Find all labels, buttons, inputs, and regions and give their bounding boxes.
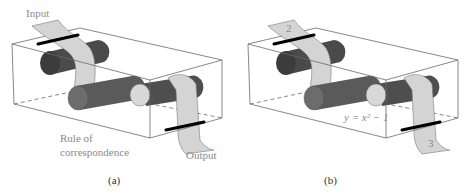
caption-a: (a) (108, 174, 121, 187)
output-value: 3 (428, 137, 434, 149)
input-label: Input (26, 7, 49, 19)
output-label: Output (186, 149, 217, 161)
input-value: 2 (286, 22, 292, 34)
panel-a: Input Rule of correspondence Output (a) (12, 7, 222, 187)
caption-b: (b) (324, 174, 337, 187)
panel-b: 2 y = x² − 1 3 (b) (248, 20, 458, 187)
machine-a (12, 20, 222, 154)
machine-b (248, 20, 458, 154)
rule-label-line1: Rule of (60, 132, 93, 144)
rule-label-line2: correspondence (60, 146, 129, 158)
rule-label: y = x² − 1 (343, 111, 388, 123)
function-machine-diagram: Input Rule of correspondence Output (a) … (0, 0, 464, 194)
